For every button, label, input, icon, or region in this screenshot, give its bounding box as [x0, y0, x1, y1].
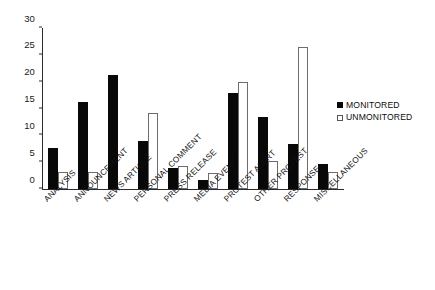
bar-monitored — [198, 180, 208, 189]
bar-unmonitored — [298, 47, 308, 189]
bar-unmonitored — [208, 173, 218, 189]
bar-monitored — [168, 168, 178, 189]
bar-group — [48, 28, 68, 189]
bar-unmonitored — [148, 113, 158, 189]
y-axis-tick-label: 25 — [24, 41, 42, 51]
plot-area: 051015202530 — [42, 28, 342, 189]
filled-square-icon — [337, 102, 343, 108]
bar-monitored — [48, 148, 58, 189]
bar-group — [78, 28, 98, 189]
bar-group — [138, 28, 158, 189]
bar-monitored — [318, 164, 328, 189]
bar-group — [168, 28, 188, 189]
y-axis-tick-label: 30 — [24, 14, 42, 24]
bar-unmonitored — [328, 172, 338, 189]
bar-group — [288, 28, 308, 189]
bar-monitored — [108, 75, 118, 189]
legend-item-label: UNMONITORED — [346, 111, 412, 123]
bar-unmonitored — [178, 166, 188, 189]
legend-item: UNMONITORED — [337, 111, 412, 123]
bar-group — [258, 28, 278, 189]
bar-monitored — [288, 144, 298, 189]
bar-group — [228, 28, 248, 189]
y-axis-tick-label: 10 — [24, 121, 42, 131]
bar-chart: 051015202530 ANALYSISANNOUNCEMENTNEWS AR… — [0, 0, 435, 290]
legend-item: MONITORED — [337, 99, 412, 111]
bar-unmonitored — [58, 172, 68, 189]
legend-item-label: MONITORED — [346, 99, 400, 111]
bar-group — [198, 28, 218, 189]
bar-group — [108, 28, 128, 189]
y-axis-tick-label: 15 — [24, 94, 42, 104]
bar-groups — [42, 28, 342, 189]
bar-monitored — [258, 117, 268, 189]
bar-unmonitored — [268, 161, 278, 189]
y-axis-tick-label: 20 — [24, 67, 42, 77]
bar-monitored — [228, 93, 238, 189]
bar-unmonitored — [238, 82, 248, 189]
bar-monitored — [78, 102, 88, 189]
y-axis-tick-label: 5 — [30, 148, 42, 158]
y-axis-tick-label: 0 — [30, 175, 42, 185]
bar-monitored — [138, 141, 148, 189]
bar-group — [318, 28, 338, 189]
x-axis-line — [42, 189, 344, 190]
open-square-icon — [337, 115, 343, 121]
bar-unmonitored — [88, 172, 98, 189]
chart-legend: MONITOREDUNMONITORED — [337, 99, 412, 124]
